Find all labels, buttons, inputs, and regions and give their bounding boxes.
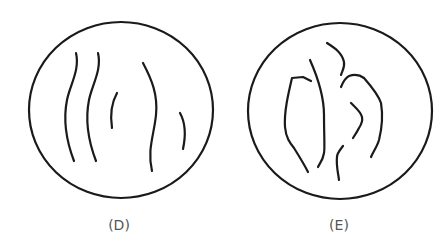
panel-d-strand-4 bbox=[143, 63, 156, 171]
panel-d-strand-1 bbox=[65, 53, 77, 161]
panel-e-strand-f bbox=[337, 146, 343, 180]
panel-d-strand-3 bbox=[111, 93, 117, 128]
panel-e-circle bbox=[248, 23, 432, 199]
panel-e-diagram bbox=[248, 23, 432, 199]
panel-d-strand-2 bbox=[87, 53, 99, 161]
panel-e-label: (E) bbox=[309, 217, 369, 233]
panel-e-strand-c bbox=[327, 43, 344, 75]
panel-d-circle bbox=[29, 22, 213, 198]
panel-e-strand-a bbox=[285, 77, 311, 172]
panel-e-strand-b bbox=[310, 60, 324, 167]
panel-e-strand-e bbox=[351, 103, 362, 138]
panel-d-diagram bbox=[29, 22, 213, 198]
figure-canvas bbox=[0, 0, 448, 248]
panel-d-strand-5 bbox=[180, 113, 185, 149]
panel-d-label: (D) bbox=[89, 217, 149, 233]
